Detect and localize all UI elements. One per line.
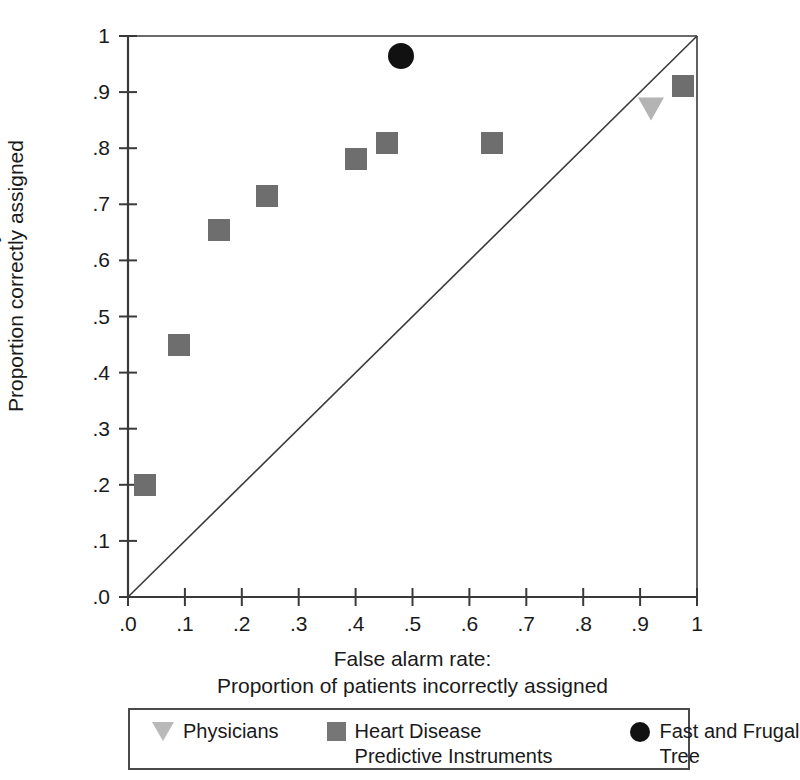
y-tick-label: .7 [70,193,110,214]
legend-label: Physicians [183,719,279,744]
y-tick-label: .6 [70,249,110,270]
legend-label-line: Fast and Frugal [659,719,799,744]
legend-label-line: Tree [659,744,799,769]
x-tick-label: .9 [620,613,660,634]
square-icon [327,722,346,741]
x-tick-label: .8 [563,613,603,634]
y-tick-label: .3 [70,418,110,439]
y-tick-label: .9 [70,81,110,102]
data-point-marker [134,474,156,496]
chance-diagonal-line [128,36,697,597]
data-point-marker [672,75,694,97]
x-tick-label: .6 [449,613,489,634]
x-tick-label: 1 [677,613,717,634]
y-tick-label: .1 [70,530,110,551]
legend-label: Fast and FrugalTree [659,719,799,769]
x-tick-label: .4 [336,613,376,634]
plot-area: .0.1.2.3.4.5.6.7.8.91 .0.1.2.3.4.5.6.7.8… [128,36,697,597]
x-tick-label: .5 [393,613,433,634]
data-point-marker [168,334,190,356]
y-axis-title-line-2: Proportion correctly assigned [3,66,29,486]
data-point-marker [256,185,278,207]
data-point-marker [481,132,503,154]
x-tick-label: .7 [506,613,546,634]
y-tick-label: .5 [70,306,110,327]
data-point-marker [638,97,664,120]
triangle-down-icon [152,722,174,741]
circle-icon [630,722,650,742]
y-tick-label: .0 [70,586,110,607]
data-point-marker [388,43,414,69]
legend-entries: PhysiciansHeart DiseasePredictive Instru… [130,710,688,768]
x-tick-label: .3 [279,613,319,634]
data-point-marker [345,148,367,170]
y-tick-label: .2 [70,474,110,495]
x-tick-label: .2 [222,613,262,634]
legend-label: Heart DiseasePredictive Instruments [355,719,553,769]
y-tick-label: .8 [70,137,110,158]
legend-label-line: Heart Disease [355,719,553,744]
y-tick-label: 1 [70,25,110,46]
x-axis-title-line-1: False alarm rate: [128,645,697,672]
legend-entry[interactable]: Physicians [152,719,279,744]
data-point-marker [376,132,398,154]
legend-label-line: Physicians [183,719,279,744]
chart-legend: PhysiciansHeart DiseasePredictive Instru… [128,708,690,770]
x-axis-title: False alarm rate: Proportion of patients… [128,645,697,699]
x-tick-label: .1 [165,613,205,634]
y-tick-label: .4 [70,362,110,383]
legend-entry[interactable]: Heart DiseasePredictive Instruments [327,719,553,769]
x-tick-label: .0 [108,613,148,634]
x-axis-title-line-2: Proportion of patients incorrectly assig… [128,672,697,699]
legend-entry[interactable]: Fast and FrugalTree [630,719,799,769]
data-point-marker [208,219,230,241]
y-axis-title: Sensitivity: Proportion correctly assign… [0,66,29,486]
legend-label-line: Predictive Instruments [355,744,553,769]
